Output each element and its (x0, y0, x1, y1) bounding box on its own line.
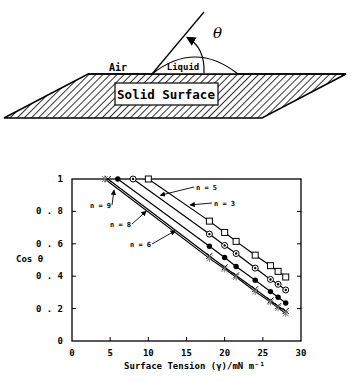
air-label: Air (109, 62, 127, 73)
y-tick-label: 0 . 4 (36, 271, 64, 281)
annotation-arrow (132, 211, 146, 224)
circle-dot (277, 283, 279, 285)
y-tick-label: 0 . 6 (36, 239, 63, 249)
square-marker (145, 176, 151, 182)
contact-angle-diagram: Solid Surface Liquid Air θ (4, 12, 346, 118)
y-tick-label: 1 (58, 174, 63, 184)
circle-dot (269, 278, 271, 280)
x-tick-label: 20 (219, 348, 230, 358)
square-marker (275, 268, 281, 274)
series-annotation: n = 3 (214, 200, 235, 208)
filled-circle-marker (115, 176, 120, 181)
x-tick-label: 25 (257, 348, 268, 358)
theta-label: θ (213, 24, 222, 42)
filled-circle-marker (233, 264, 238, 269)
x-tick-label: 30 (296, 348, 307, 358)
square-marker (267, 263, 273, 269)
square-marker (233, 238, 239, 244)
solid-label: Solid Surface (117, 87, 215, 102)
series-annotation: n = 5 (196, 184, 217, 192)
y-tick-label: 0 . 2 (36, 304, 63, 314)
series-n5 (130, 176, 289, 293)
annotation-arrow (190, 203, 212, 205)
series-annotation: n = 9 (90, 202, 111, 210)
series-annotation: n = 8 (110, 221, 131, 229)
x-tick-label: 10 (143, 348, 154, 358)
x-axis-label: Surface Tension (γ)/mN m⁻¹ (124, 361, 265, 371)
circle-dot (285, 289, 287, 291)
circle-dot (254, 267, 256, 269)
liquid-label: Liquid (167, 62, 200, 72)
x-tick-label: 0 (69, 348, 74, 358)
square-marker (252, 252, 258, 258)
square-marker (222, 229, 228, 235)
filled-circle-marker (283, 300, 288, 305)
y-tick-label: 0 . 8 (36, 206, 63, 216)
circle-dot (235, 252, 237, 254)
filled-circle-marker (222, 255, 227, 260)
square-marker (206, 218, 212, 224)
figure: Solid Surface Liquid Air θ 0510152025300… (0, 0, 355, 382)
y-axis-label: Cos θ (16, 254, 43, 264)
filled-circle-marker (268, 289, 273, 294)
annotation-arrow (112, 190, 114, 205)
circle-dot (132, 178, 134, 180)
annotation-arrow (152, 231, 175, 244)
filled-circle-marker (207, 244, 212, 249)
circle-dot (223, 244, 225, 246)
x-tick-label: 15 (181, 348, 192, 358)
series-annotation: n = 6 (130, 241, 151, 249)
chart: 05101520253000 . 20 . 40 . 60 . 81Surfac… (16, 174, 306, 371)
filled-circle-marker (253, 278, 258, 283)
circle-dot (208, 233, 210, 235)
square-marker (283, 274, 289, 280)
y-tick-label: 0 (58, 336, 63, 346)
filled-circle-marker (275, 295, 280, 300)
x-tick-label: 5 (107, 348, 112, 358)
